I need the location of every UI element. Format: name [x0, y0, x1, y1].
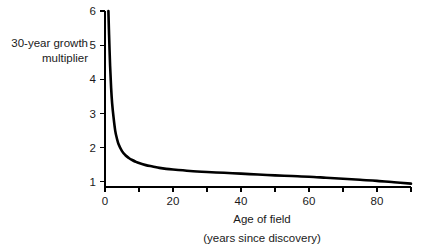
x-tick-labels: 020406080: [102, 195, 384, 207]
x-tick-label: 40: [235, 195, 248, 207]
x-axis-label-sub: (years since discovery): [203, 232, 321, 244]
y-tick-label: 4: [90, 73, 97, 85]
data-curve-line: [108, 11, 411, 184]
y-tick-label: 6: [90, 5, 96, 17]
x-tick-label: 80: [371, 195, 384, 207]
y-tick-label: 5: [90, 39, 96, 51]
x-tick-label: 60: [303, 195, 316, 207]
plot-area: 123456 020406080 Age of field (years sin…: [0, 0, 439, 249]
axes: [105, 11, 411, 187]
y-tick-label: 2: [90, 142, 96, 154]
x-axis-label-main: Age of field: [233, 213, 291, 225]
x-tick-marks: [105, 187, 411, 192]
y-tick-label: 1: [90, 176, 96, 188]
y-tick-marks: [100, 11, 105, 182]
x-tick-label: 0: [102, 195, 108, 207]
y-tick-label: 3: [90, 108, 96, 120]
y-tick-labels: 123456: [90, 5, 97, 188]
chart-figure: 30-year growth multiplier 123456 0204060…: [0, 0, 439, 249]
x-tick-label: 20: [167, 195, 180, 207]
